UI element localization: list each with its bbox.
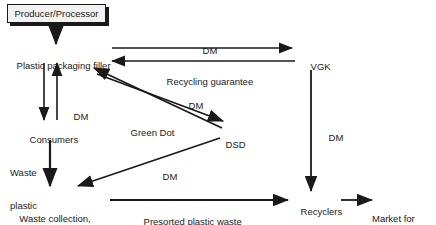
node-market-for-recycled-plastics: Market for recycled plastics <box>372 191 436 225</box>
node-consumers-label: Consumers <box>30 134 79 145</box>
edge-label-recycling-guarantee: Recycling guarantee <box>156 65 253 98</box>
edge-label-waste-plastic: Waste plastic <box>10 145 37 225</box>
node-recyclers-label: Recyclers <box>301 206 343 217</box>
edge-label-waste-plastic-line1: Waste <box>10 167 37 178</box>
edge-label-waste-plastic-line2: plastic <box>10 200 37 211</box>
edge-label-green-dot: Green Dot <box>120 116 174 149</box>
edge-label-dm-vgk-recyclers: DM <box>318 121 343 154</box>
node-vgk-label: VGK <box>311 61 331 72</box>
edge-label-presorted-plastic-waste: Presorted plastic waste <box>133 205 242 225</box>
edge-label-dm-consumers-filler: DM <box>63 100 88 133</box>
node-plastic-packaging-filler: Plastic packaging filler <box>6 49 106 82</box>
edge-label-dm-dsd-waste: DM <box>152 160 177 193</box>
node-dsd: DSD <box>215 128 243 161</box>
edge-label-dm-filler-vgk: DM <box>192 34 217 67</box>
node-dsd-label: DSD <box>226 139 246 150</box>
node-plastic-packaging-filler-label: Plastic packaging filler <box>17 60 111 71</box>
node-producer-processor-label: Producer/Processor <box>15 8 99 19</box>
node-recyclers: Recyclers <box>290 195 340 225</box>
diagram-canvas: Producer/Processor Plastic packaging fil… <box>0 0 436 225</box>
node-vgk: VGK <box>300 50 330 83</box>
node-market-label-line1: Market for <box>372 213 436 224</box>
node-producer-processor: Producer/Processor <box>7 4 106 23</box>
edge-label-dm-filler-dsd: DM <box>178 89 203 122</box>
